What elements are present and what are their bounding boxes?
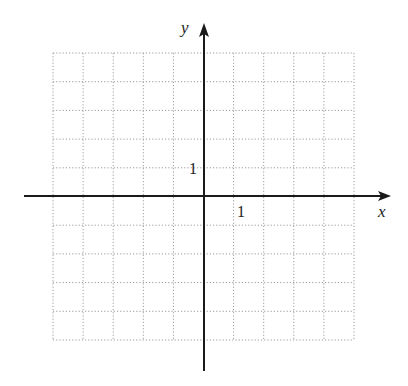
y-tick-label: 1: [189, 160, 197, 177]
x-axis: [24, 191, 391, 201]
coordinate-plane: y x 1 1: [0, 0, 408, 386]
x-tick-label: 1: [237, 203, 245, 220]
x-axis-label: x: [377, 202, 386, 221]
y-axis-label: y: [179, 18, 189, 37]
